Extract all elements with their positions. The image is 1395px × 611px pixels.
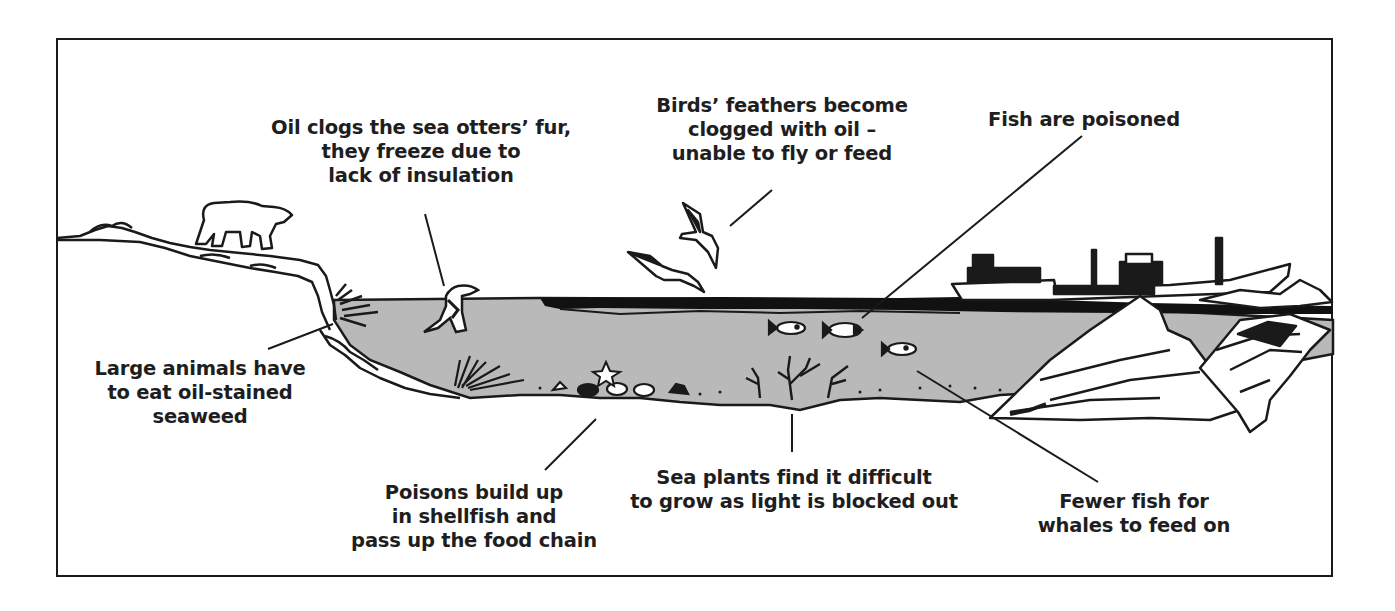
leader-line-birds (730, 190, 772, 226)
leader-line-sea-otters (425, 214, 444, 286)
label-line: Poisons build up (351, 481, 597, 505)
label-line: Fewer fish for (1038, 490, 1230, 514)
label-line: clogged with oil – (656, 118, 908, 142)
label-line: lack of insulation (271, 164, 571, 188)
leader-line-shellfish (545, 419, 596, 470)
label-line: seaweed (95, 405, 306, 429)
label-line: Sea plants find it difficult (630, 466, 958, 490)
label-large-animals: Large animals haveto eat oil-stainedseaw… (95, 357, 306, 429)
label-line: they freeze due to (271, 140, 571, 164)
label-line: unable to fly or feed (656, 142, 908, 166)
label-line: to grow as light is blocked out (630, 490, 958, 514)
label-line: pass up the food chain (351, 529, 597, 553)
label-whales: Fewer fish forwhales to feed on (1038, 490, 1230, 538)
label-line: to eat oil-stained (95, 381, 306, 405)
label-line: Large animals have (95, 357, 306, 381)
label-line: Birds’ feathers become (656, 94, 908, 118)
label-fish-poisoned: Fish are poisoned (988, 108, 1180, 132)
label-line: in shellfish and (351, 505, 597, 529)
label-shellfish: Poisons build upin shellfish andpass up … (351, 481, 597, 553)
label-line: Oil clogs the sea otters’ fur, (271, 116, 571, 140)
label-birds: Birds’ feathers becomeclogged with oil –… (656, 94, 908, 166)
polar-bear (196, 202, 292, 250)
label-sea-otters: Oil clogs the sea otters’ fur,they freez… (271, 116, 571, 188)
label-sea-plants: Sea plants find it difficultto grow as l… (630, 466, 958, 514)
birds (628, 203, 718, 292)
label-line: whales to feed on (1038, 514, 1230, 538)
label-line: Fish are poisoned (988, 108, 1180, 132)
